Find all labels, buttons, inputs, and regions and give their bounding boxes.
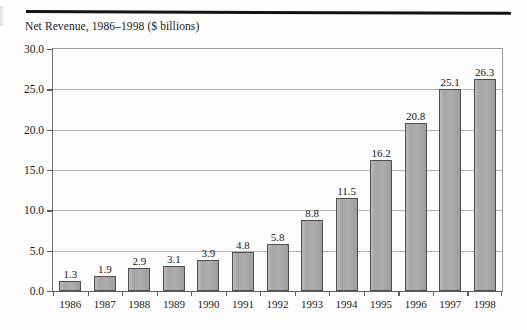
bar: 1.3	[59, 281, 81, 291]
x-axis-tick	[260, 291, 261, 296]
bar-value-label: 26.3	[475, 66, 494, 78]
bar: 4.8	[232, 252, 254, 291]
x-axis-tick	[501, 291, 502, 296]
x-axis-category-label: 1993	[301, 298, 323, 310]
x-axis-category-label: 1987	[94, 298, 116, 310]
gridline	[53, 210, 502, 211]
bar: 11.5	[336, 198, 358, 291]
x-axis-category-label: 1998	[474, 298, 496, 310]
bar-value-label: 1.9	[98, 263, 112, 275]
y-axis-tick	[47, 170, 53, 171]
x-axis-tick	[295, 291, 296, 296]
x-axis-category-label: 1992	[267, 298, 289, 310]
y-axis-tick-label: 20.0	[24, 124, 44, 136]
bar-value-label: 20.8	[406, 110, 425, 122]
x-axis-category-label: 1990	[197, 298, 219, 310]
x-axis-category-label: 1996	[405, 298, 427, 310]
bar-value-label: 3.9	[202, 247, 216, 259]
x-axis-tick	[467, 291, 468, 296]
x-axis-tick	[88, 291, 89, 296]
bar: 3.1	[163, 266, 185, 291]
bar: 26.3	[474, 79, 496, 291]
title-rule-divider	[26, 10, 511, 15]
bar: 16.2	[370, 160, 392, 291]
bar: 20.8	[405, 123, 427, 291]
x-axis-tick	[191, 291, 192, 296]
gridline	[53, 170, 502, 171]
y-axis-tick	[47, 89, 53, 90]
bar-value-label: 1.3	[63, 268, 77, 280]
y-axis-tick-label: 15.0	[24, 164, 44, 176]
chart-page: Net Revenue, 1986–1998 ($ billions) 0.05…	[0, 0, 527, 330]
y-axis-tick-label: 0.0	[30, 285, 44, 297]
x-axis-category-label: 1986	[59, 298, 81, 310]
x-axis-tick	[157, 291, 158, 296]
y-axis-tick-label: 25.0	[24, 83, 44, 95]
x-axis-tick	[433, 291, 434, 296]
x-axis-tick	[398, 291, 399, 296]
bar-value-label: 2.9	[132, 255, 146, 267]
y-axis-tick-label: 5.0	[30, 245, 44, 257]
bar: 25.1	[439, 89, 461, 291]
x-axis-category-label: 1989	[163, 298, 185, 310]
x-axis-tick	[122, 291, 123, 296]
gridline	[53, 89, 502, 90]
x-axis-tick	[329, 291, 330, 296]
x-axis-tick	[53, 291, 54, 296]
bar: 1.9	[94, 276, 116, 291]
y-axis-tick-label: 10.0	[24, 204, 44, 216]
plot-area: 0.05.010.015.020.025.030.0 1986198719881…	[52, 48, 503, 292]
bar: 3.9	[197, 260, 219, 291]
bar: 8.8	[301, 220, 323, 291]
bar-value-label: 5.8	[271, 231, 285, 243]
bar: 2.9	[128, 268, 150, 291]
chart-title: Net Revenue, 1986–1998 ($ billions)	[25, 20, 199, 32]
x-axis-category-label: 1997	[439, 298, 461, 310]
x-axis-category-label: 1994	[336, 298, 358, 310]
x-axis-tick	[226, 291, 227, 296]
bar-value-label: 3.1	[167, 253, 181, 265]
x-axis-category-label: 1988	[128, 298, 150, 310]
bar-value-label: 8.8	[305, 207, 319, 219]
y-axis-tick-label: 30.0	[24, 43, 44, 55]
gridline	[53, 130, 502, 131]
y-axis-tick	[47, 130, 53, 131]
scan-edge-artifact	[0, 6, 4, 26]
x-axis-category-label: 1991	[232, 298, 254, 310]
bar: 5.8	[267, 244, 289, 291]
y-axis-tick	[47, 210, 53, 211]
y-axis-tick	[47, 49, 53, 50]
bar-value-label: 4.8	[236, 239, 250, 251]
bar-value-label: 25.1	[441, 76, 460, 88]
y-axis-tick	[47, 251, 53, 252]
bar-value-label: 11.5	[337, 185, 356, 197]
x-axis-category-label: 1995	[370, 298, 392, 310]
x-axis-tick	[364, 291, 365, 296]
bar-value-label: 16.2	[371, 147, 390, 159]
